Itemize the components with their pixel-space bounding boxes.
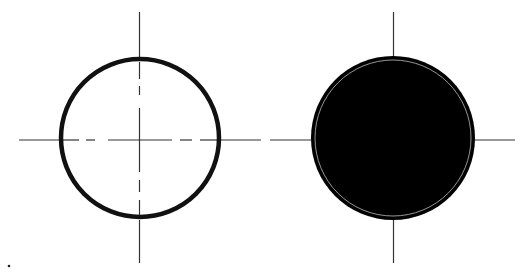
filled-circle bbox=[311, 56, 475, 220]
filled-circle-symbol bbox=[270, 12, 515, 263]
dot-mark bbox=[8, 265, 11, 268]
open-circle-symbol bbox=[19, 12, 261, 263]
diagram-canvas bbox=[0, 0, 524, 274]
